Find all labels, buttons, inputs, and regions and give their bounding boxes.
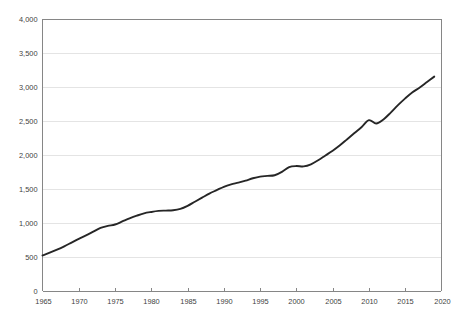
y-axis-tick-label: 3,000 bbox=[19, 83, 38, 92]
chart-canvas: 05001,0001,5002,0002,5003,0003,5004,000 … bbox=[0, 0, 462, 322]
line-chart: 05001,0001,5002,0002,5003,0003,5004,000 … bbox=[0, 0, 462, 322]
x-axis-tick-label: 2000 bbox=[288, 297, 304, 306]
x-axis-tick-label: 2010 bbox=[361, 297, 377, 306]
x-axis-tick-label: 2015 bbox=[397, 297, 413, 306]
y-axis-tick-label: 2,500 bbox=[19, 117, 38, 126]
x-axis-tick-label: 2020 bbox=[434, 297, 450, 306]
x-axis-tick-label: 1975 bbox=[107, 297, 123, 306]
y-axis-tick-label: 1,500 bbox=[19, 185, 38, 194]
y-axis-tick-label: 3,500 bbox=[19, 49, 38, 58]
x-axis-tick-label: 1990 bbox=[216, 297, 232, 306]
y-axis-tick-label: 500 bbox=[25, 253, 37, 262]
x-axis-tick-marks bbox=[80, 288, 406, 292]
y-axis-tick-label: 1,000 bbox=[19, 219, 38, 228]
y-axis-tick-label: 2,000 bbox=[19, 151, 38, 160]
y-axis-tick-label: 4,000 bbox=[19, 15, 38, 24]
x-axis-tick-label: 1965 bbox=[35, 297, 51, 306]
data-series-line bbox=[43, 77, 435, 256]
x-axis-tick-label: 1970 bbox=[71, 297, 87, 306]
y-axis-tick-labels: 05001,0001,5002,0002,5003,0003,5004,000 bbox=[19, 15, 38, 296]
x-axis-tick-label: 1995 bbox=[252, 297, 268, 306]
x-axis-tick-label: 2005 bbox=[325, 297, 341, 306]
x-axis-tick-label: 1980 bbox=[143, 297, 159, 306]
y-axis-tick-label: 0 bbox=[33, 287, 37, 296]
x-axis-tick-label: 1985 bbox=[180, 297, 196, 306]
x-axis-tick-labels: 1965197019751980198519901995200020052010… bbox=[35, 297, 450, 306]
